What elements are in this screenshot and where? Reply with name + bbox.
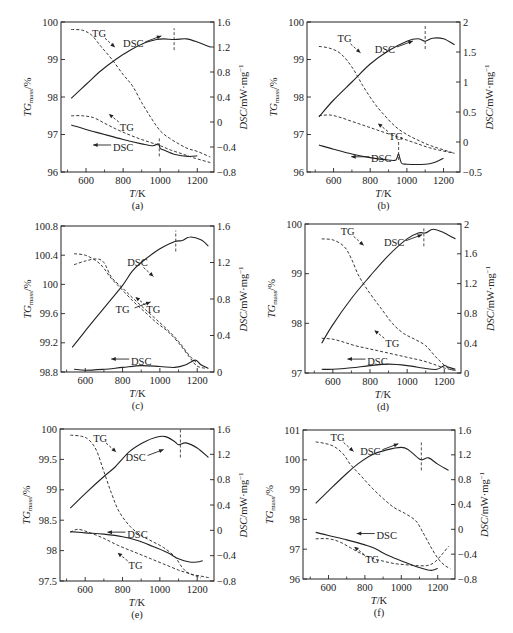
x-tick-label: 1000 (149, 375, 170, 386)
y-tick-label: 96 (294, 167, 305, 178)
y2-tick-label: 0.8 (464, 308, 477, 319)
panel-label: (e) (131, 609, 143, 621)
y-tick-label: 97.5 (39, 576, 57, 587)
chart-panel-a: 6008001000120096979899100−0.8−0.400.40.8… (22, 17, 249, 213)
y-tick-label: 100 (284, 454, 300, 465)
y2-tick-label: 1.2 (217, 257, 230, 268)
x-axis-title: T/K (129, 188, 146, 199)
y-tick-label: 97 (294, 129, 305, 140)
y2-tick-label: 0.4 (217, 330, 231, 341)
x-tick-label: 1200 (427, 582, 448, 593)
y-tick-label: 98 (292, 318, 303, 329)
y2-tick-label: −0.5 (463, 167, 482, 178)
x-tick-label: 800 (362, 175, 378, 186)
x-tick-label: 1000 (396, 175, 417, 186)
y2-tick-label: 0.8 (458, 474, 471, 485)
x-tick-label: 600 (326, 175, 342, 186)
panel-label: (b) (377, 200, 390, 212)
chart-panel-d: 6008001000120097989910000.40.81.21.62T/K… (266, 219, 496, 414)
y-axis-title: TGmass/% (22, 77, 35, 116)
annotation-dsc: DSC (127, 257, 147, 268)
series-dsc-heating (70, 436, 208, 508)
y2-tick-label: 1.2 (464, 278, 477, 289)
y2-tick-label: −0.4 (217, 550, 237, 561)
y2-tick-label: −0.4 (458, 549, 478, 560)
x-tick-label: 800 (362, 376, 378, 387)
y-tick-label: 96 (48, 167, 59, 178)
annotation-tg: TG (341, 226, 355, 237)
y-tick-label: 98.5 (39, 515, 57, 526)
annotation-dsc: DSC (384, 237, 404, 248)
y-tick-label: 99.2 (40, 337, 58, 348)
y-tick-label: 98 (290, 514, 301, 525)
y-axis-title: TGmass/% (266, 279, 279, 318)
y2-tick-label: 0.4 (458, 499, 472, 510)
x-axis-title: T/K (129, 388, 146, 399)
y-tick-label: 100.8 (34, 221, 58, 232)
x-axis-title: T/K (375, 389, 392, 400)
y2-axis-title: DSC/mW·mg−1 (237, 472, 249, 539)
annotation-tg: TG (146, 304, 160, 315)
annotation-tg: TG (389, 131, 403, 142)
annotation-dsc: DSC (123, 38, 143, 49)
y2-axis-title: DSC/mW·mg−1 (478, 471, 490, 538)
y-axis-title: TGmass/% (268, 77, 281, 116)
y2-tick-label: 1.6 (217, 17, 230, 28)
x-tick-label: 800 (115, 175, 131, 186)
panel-label: (f) (374, 607, 385, 619)
y2-tick-label: 1.2 (217, 42, 230, 53)
y-tick-label: 98 (47, 545, 58, 556)
y-tick-label: 100 (41, 424, 57, 435)
y2-tick-label: 0.5 (463, 107, 476, 118)
series-dsc-heating (316, 447, 449, 503)
series-tg-heating (316, 442, 451, 569)
y2-tick-label: 0 (217, 525, 222, 536)
x-axis-title: T/K (129, 597, 146, 608)
x-tick-label: 1200 (187, 584, 208, 595)
x-tick-label: 800 (357, 582, 373, 593)
y2-tick-label: 0 (458, 524, 463, 535)
annotation-tg: TG (365, 554, 379, 565)
x-axis-title: T/K (371, 595, 388, 606)
y2-tick-label: −0.8 (458, 574, 477, 585)
annotation-tg: TG (129, 560, 143, 571)
annotation-dsc: DSC (367, 356, 387, 367)
y-tick-label: 99 (294, 54, 305, 65)
x-tick-label: 600 (321, 582, 337, 593)
y2-tick-label: 1.6 (464, 248, 477, 259)
y2-tick-label: −0.8 (217, 576, 236, 587)
y2-tick-label: 0 (217, 117, 222, 128)
y2-tick-label: −0.8 (217, 167, 236, 178)
y2-tick-label: 0.8 (217, 67, 230, 78)
y2-tick-label: 1 (463, 77, 468, 88)
annotation-dsc: DSC (131, 356, 151, 367)
y2-axis-title: DSC/mW·mg−1 (483, 64, 495, 131)
y2-tick-label: 1.2 (217, 449, 230, 460)
panel-label: (d) (377, 401, 390, 413)
series-tg-cooling (74, 259, 197, 363)
x-tick-label: 600 (77, 584, 93, 595)
annotation-dsc: DSC (375, 44, 395, 55)
y2-tick-label: 2 (463, 17, 468, 28)
y-tick-label: 96 (290, 574, 301, 585)
y-tick-label: 99 (290, 484, 301, 495)
x-tick-label: 1000 (391, 582, 412, 593)
y2-axis-title: DSC/mW·mg−1 (484, 265, 496, 332)
annotation-tg: TG (120, 122, 134, 133)
annotation-tg: TG (92, 28, 106, 39)
y-tick-label: 99 (47, 484, 58, 495)
panel-label: (a) (132, 200, 144, 212)
x-tick-label: 600 (325, 376, 341, 387)
y2-tick-label: 0.4 (217, 500, 231, 511)
y2-tick-label: 0.4 (217, 92, 231, 103)
series-tg-heating (322, 239, 456, 371)
y-axis-title: TGmass/% (22, 279, 35, 318)
y-tick-label: 100 (42, 279, 58, 290)
y-axis-title: TGmass/% (21, 485, 34, 524)
annotation-tg: TG (385, 338, 399, 349)
y-tick-label: 99.6 (40, 308, 58, 319)
y2-tick-label: 1.2 (458, 449, 471, 460)
y2-tick-label: 1.6 (217, 424, 230, 435)
y2-axis-title: DSC/mW·mg−1 (237, 64, 249, 131)
annotation-tg: TG (338, 33, 352, 44)
